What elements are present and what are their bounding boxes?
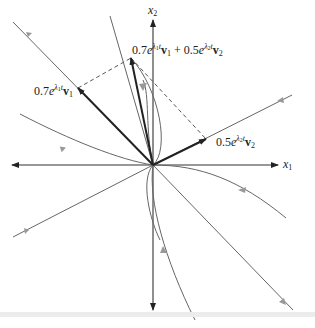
- curve-right-lower: [153, 165, 286, 218]
- dashed-line-v1-to-sum: [78, 58, 131, 88]
- v1-line-lower: [153, 165, 293, 310]
- steep-line-lower: [152, 165, 195, 320]
- bottom-divider: [0, 312, 315, 317]
- v2-vector-label: 0.5eλ2tv2: [216, 134, 255, 150]
- vector-sum: [131, 58, 153, 165]
- x2-axis-label: x2: [148, 3, 157, 18]
- v1-vector-label: 0.7eλ1tv1: [34, 83, 73, 99]
- sum-vector-label: 0.7eλ1tv1 + 0.5eλ2tv2: [132, 42, 223, 58]
- arrow-icon: [60, 146, 67, 153]
- x1-axis-label: x1: [283, 157, 292, 172]
- v2-line-lower: [13, 165, 153, 237]
- curve-left-upper: [20, 114, 153, 165]
- axes: [12, 20, 278, 310]
